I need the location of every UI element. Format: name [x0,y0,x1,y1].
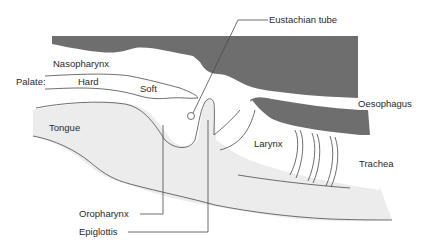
label-oropharynx: Oropharynx [79,208,129,219]
label-palate: Palate: [16,76,46,87]
eustachian-tube-opening [188,113,195,120]
label-eustachian-tube: Eustachian tube [269,14,337,25]
label-larynx: Larynx [254,138,283,149]
pharynx-diagram: Eustachian tube Nasopharynx Palate: Hard… [0,0,435,246]
label-trachea: Trachea [359,158,394,169]
label-soft-palate: Soft [140,83,157,94]
label-oesophagus: Oesophagus [358,98,412,109]
label-tongue: Tongue [49,122,80,133]
label-hard-palate: Hard [78,76,99,87]
palate-outline [45,74,198,98]
label-epiglottis: Epiglottis [79,226,118,237]
label-nasopharynx: Nasopharynx [53,58,109,69]
